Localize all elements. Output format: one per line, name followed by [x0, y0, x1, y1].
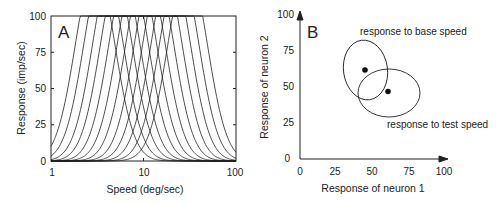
panel-a-ytick-75: 75 — [35, 47, 47, 58]
panel-a-ytick-100: 100 — [29, 11, 46, 22]
test-speed-mean-dot — [385, 89, 391, 95]
base-speed-mean-dot — [362, 67, 368, 73]
panel-a-ytick-50: 50 — [35, 83, 47, 94]
annotation-test-speed: response to test speed — [387, 119, 488, 130]
panel-b-xtick-50: 50 — [366, 166, 378, 177]
tuning-curves — [51, 16, 236, 161]
panel-a-xtick-100: 100 — [227, 167, 244, 178]
panel-b-label: B — [307, 23, 318, 42]
panel-b-ytick-100: 100 — [277, 9, 294, 20]
figure: 100 75 50 25 0 1 10 100 Speed (deg/sec) … — [0, 0, 503, 203]
panel-b-ytick-0: 0 — [284, 153, 290, 164]
panel-a-x-label: Speed (deg/sec) — [106, 183, 183, 195]
panel-b-ytick-25: 25 — [283, 117, 295, 128]
panel-a-ytick-0: 0 — [40, 156, 46, 167]
panel-b-xtick-0: 0 — [297, 166, 303, 177]
panel-a-y-label: Response (imp/sec) — [15, 41, 27, 134]
panel-b-y-label: Response of neuron 2 — [258, 35, 270, 138]
panel-a-label: A — [58, 23, 70, 42]
panel-a-xtick-1: 1 — [49, 167, 55, 178]
panel-a: 100 75 50 25 0 1 10 100 Speed (deg/sec) … — [15, 11, 244, 196]
panel-b-x-label: Response of neuron 1 — [321, 182, 424, 194]
panel-b-xtick-75: 75 — [403, 166, 415, 177]
panel-b-ytick-50: 50 — [283, 81, 295, 92]
panel-b-ytick-75: 75 — [283, 45, 295, 56]
panel-b: 100 75 50 25 0 0 25 50 75 100 Response o… — [258, 9, 488, 194]
panel-b-xtick-25: 25 — [329, 166, 341, 177]
panel-b-xtick-100: 100 — [436, 166, 453, 177]
panel-a-xtick-10: 10 — [138, 167, 150, 178]
panel-a-ytick-25: 25 — [35, 119, 47, 130]
annotation-base-speed: response to base speed — [360, 26, 467, 37]
